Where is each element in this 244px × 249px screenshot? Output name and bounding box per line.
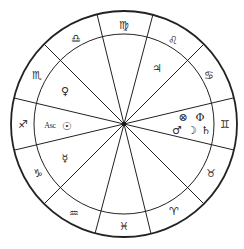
house-cusp-2 [44, 44, 124, 124]
planet-sun-icon: ☉︎ [62, 121, 72, 132]
sign-aquarius-icon: ♒︎ [69, 208, 79, 219]
center-point [122, 122, 126, 126]
planet-venus-icon: ♀︎ [61, 86, 69, 97]
planet-saturn-icon: ♄︎ [201, 125, 211, 136]
house-cusp-11 [44, 124, 124, 204]
planet-jupiter-icon: ♃︎ [152, 63, 162, 74]
planet-mars-icon: ♂︎ [172, 125, 182, 136]
sign-libra-icon: ♎︎ [71, 33, 81, 44]
sign-aries-icon: ♈︎ [169, 206, 179, 217]
sign-scorpio-icon: ♏︎ [32, 70, 42, 81]
sign-leo-icon: ♌︎ [168, 35, 178, 46]
ascendant-label: Asc [44, 122, 56, 130]
sign-sagittarius-icon: ♐︎ [18, 119, 28, 130]
sign-capricorn-icon: ♑︎ [33, 168, 43, 179]
planet-part-of-fortune-icon: ⊗︎ [178, 112, 187, 123]
sign-virgo-icon: ♍︎ [119, 20, 129, 31]
planet-uranus-icon: Φ︎ [195, 112, 204, 123]
house-cusp-10 [95, 124, 124, 233]
house-cusp-9 [124, 124, 151, 234]
sign-taurus-icon: ♉︎ [206, 168, 216, 179]
sign-pisces-icon: ♓︎ [119, 221, 129, 232]
house-cusp-5 [124, 44, 204, 124]
planet-mercury-icon: ☿︎ [62, 153, 69, 164]
sign-gemini-icon: ♊︎ [220, 119, 230, 130]
sign-cancer-icon: ♋︎ [204, 70, 214, 81]
planet-moon-icon: ☽︎ [187, 125, 197, 136]
